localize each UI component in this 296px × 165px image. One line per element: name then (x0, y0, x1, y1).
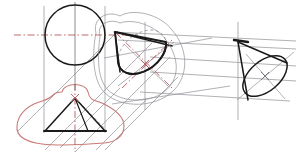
sketch-outline-group (17, 85, 124, 145)
horizontal-projector-4 (150, 72, 296, 81)
object-lines-group (44, 5, 295, 131)
front-view-sketch-outline (17, 85, 124, 145)
technical-drawing-canvas (0, 0, 296, 165)
horizontal-projector-3 (150, 57, 296, 66)
drawing-svg (0, 0, 296, 165)
middle-cone-element-right (115, 32, 172, 46)
right-cone-apex-tick (234, 40, 248, 42)
hidden-lines-group (75, 30, 166, 130)
middle-cone-element-left (115, 32, 120, 72)
right-cone-element-lower (238, 42, 248, 100)
band-edge-lower (112, 86, 230, 104)
